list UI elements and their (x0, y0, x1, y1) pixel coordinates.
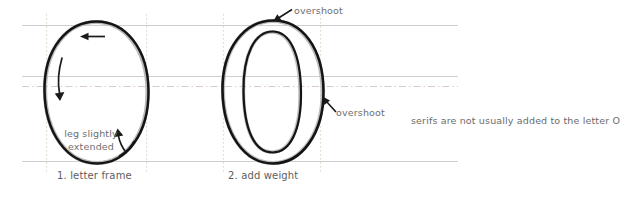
annotation-leg-extended-line2: extended (68, 141, 114, 152)
annotation-serif-note: serifs are not usually added to the lett… (411, 115, 620, 127)
step-label-add-weight: 2. add weight (228, 170, 298, 182)
annotation-overshoot-right: overshoot (336, 107, 385, 119)
letter-o-counter-shadow (243, 32, 300, 152)
letterforms-layer (0, 0, 643, 197)
annotation-overshoot-top: overshoot (294, 5, 343, 17)
top-direction-arrow-icon (80, 33, 105, 40)
letter-o-weighted-outer-shadow (223, 21, 323, 163)
step-label-letter-frame: 1. letter frame (57, 170, 132, 182)
letter-o-weighted (222, 21, 323, 164)
letter-o-construction-figure: leg slightly extended overshoot overshoo… (0, 0, 643, 197)
left-downstroke-arrow-icon (55, 58, 65, 101)
annotation-leg-extended: leg slightly extended (58, 128, 124, 153)
overshoot-right-arrow-icon (323, 97, 337, 113)
overshoot-top-arrow-icon (273, 10, 292, 22)
annotation-leg-extended-line1: leg slightly (64, 128, 118, 139)
